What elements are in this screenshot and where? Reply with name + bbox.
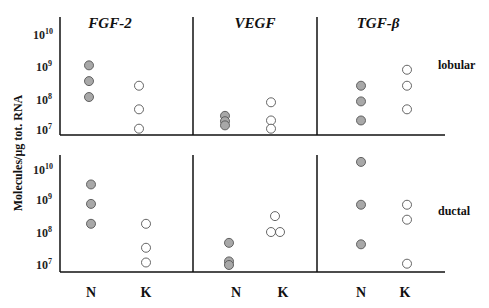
svg-text:1010: 1010 [33,27,53,42]
y-ticks-top: 1010 109 108 107 [33,27,53,137]
axes [60,17,445,272]
data-point-normal [87,199,96,208]
data-point-normal [221,121,230,130]
svg-text:N: N [86,285,96,300]
data-point-normal [225,261,234,270]
data-point-normal [357,81,366,90]
svg-text:107: 107 [36,257,52,272]
data-point-cancer [267,98,276,107]
data-point-cancer [135,81,144,90]
row-label-ductal: ductal [438,204,471,218]
svg-text:109: 109 [36,59,52,74]
x-labels: N K N K N K [86,285,411,300]
data-point-cancer [142,258,151,267]
data-point-normal [87,180,96,189]
svg-text:108: 108 [36,92,52,107]
svg-text:K: K [141,285,152,300]
data-point-cancer [142,219,151,228]
svg-text:1010: 1010 [33,162,53,177]
data-points [85,61,412,270]
data-point-cancer [142,243,151,252]
data-point-normal [357,157,366,166]
data-point-cancer [403,259,412,268]
data-point-cancer [276,228,285,237]
y-ticks-bottom: 1010 109 108 107 [33,162,53,272]
svg-text:K: K [400,285,411,300]
data-point-normal [357,240,366,249]
data-point-normal [85,77,94,86]
data-point-cancer [267,124,276,133]
data-point-cancer [403,81,412,90]
svg-text:N: N [231,285,241,300]
data-point-normal [357,116,366,125]
data-point-cancer [271,212,280,221]
data-point-cancer [135,124,144,133]
data-point-cancer [403,200,412,209]
column-title-tgfb: TGF-β [357,15,400,31]
data-point-normal [225,238,234,247]
svg-text:K: K [278,285,289,300]
chart-figure: Molecules/μg tot. RNA FGF-2 VEGF TGF-β l… [0,0,489,308]
svg-text:107: 107 [36,122,52,137]
column-title-vegf: VEGF [235,15,276,31]
svg-text:108: 108 [36,225,52,240]
data-point-normal [357,200,366,209]
data-point-cancer [267,228,276,237]
data-point-cancer [403,215,412,224]
svg-text:N: N [356,285,366,300]
scatter-chart: Molecules/μg tot. RNA FGF-2 VEGF TGF-β l… [0,0,489,308]
row-label-lobular: lobular [438,58,476,72]
data-point-normal [87,219,96,228]
data-point-cancer [403,105,412,114]
data-point-cancer [267,116,276,125]
column-title-fgf2: FGF-2 [87,15,132,31]
data-point-cancer [403,65,412,74]
data-point-normal [357,97,366,106]
svg-text:109: 109 [36,192,52,207]
data-point-normal [85,61,94,70]
y-axis-label: Molecules/μg tot. RNA [11,94,25,211]
data-point-normal [85,93,94,102]
data-point-cancer [135,105,144,114]
